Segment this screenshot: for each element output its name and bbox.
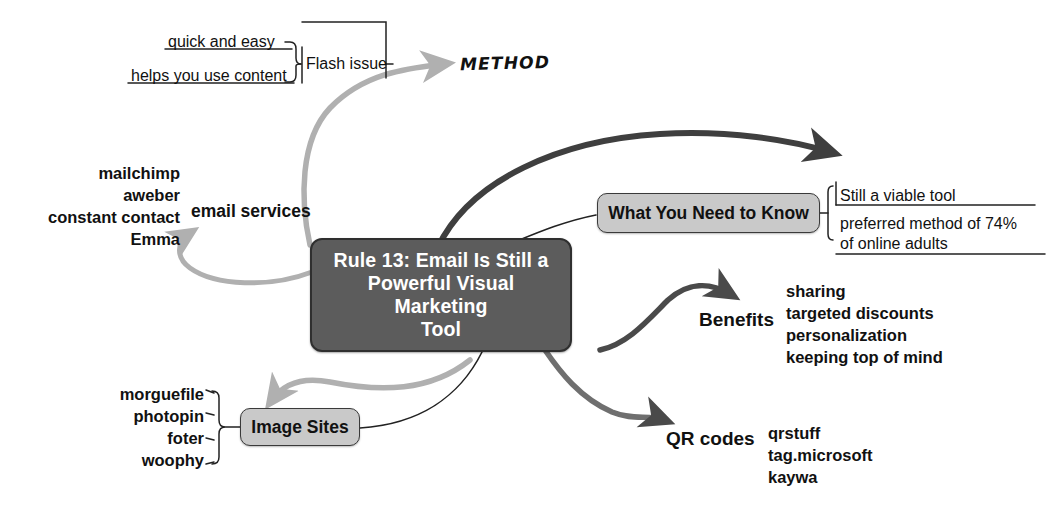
image-sites-item[interactable]: woophy: [20, 450, 204, 472]
email-services-list: mailchimp aweber constant contact Emma: [0, 163, 180, 251]
connector-center-to-method: [304, 64, 444, 245]
image-sites-node[interactable]: Image Sites: [240, 408, 360, 446]
center-node-label: Rule 13: Email Is Still a Powerful Visua…: [322, 249, 560, 341]
email-services-item[interactable]: Emma: [0, 229, 180, 251]
email-services-item[interactable]: mailchimp: [0, 163, 180, 185]
image-sites-item[interactable]: foter: [20, 428, 204, 450]
benefits-item[interactable]: personalization: [786, 325, 943, 347]
benefits-item[interactable]: sharing: [786, 281, 943, 303]
wyntk-item-preferred-method-line1[interactable]: preferred method of 74%: [840, 216, 1017, 232]
image-sites-item[interactable]: morguefile: [20, 384, 204, 406]
what-you-need-to-know-label: What You Need to Know: [608, 203, 809, 224]
connector-center-to-email-services: [180, 233, 313, 283]
wyntk-item-still-a-viable-tool[interactable]: Still a viable tool: [840, 188, 956, 204]
email-services-item[interactable]: constant contact: [0, 207, 180, 229]
wyntk-item-preferred-method-line2[interactable]: of online adults: [840, 236, 948, 252]
method-label[interactable]: METHOD: [460, 52, 551, 74]
benefits-label[interactable]: Benefits: [699, 310, 774, 329]
connector-line-image-sites-to-center: [360, 352, 482, 428]
flash-issue-label[interactable]: Flash issue: [306, 56, 387, 72]
qr-codes-item[interactable]: tag.microsoft: [768, 445, 873, 467]
connector-center-to-qr-codes: [545, 350, 664, 420]
bracket-flash-issue: [302, 22, 393, 83]
qr-codes-list: qrstuff tag.microsoft kaywa: [768, 423, 873, 489]
brace-image-sites-items: [206, 390, 240, 464]
method-item-quick-and-easy[interactable]: quick and easy: [168, 33, 275, 51]
center-node[interactable]: Rule 13: Email Is Still a Powerful Visua…: [310, 238, 572, 352]
qr-codes-label[interactable]: QR codes: [666, 429, 755, 448]
mindmap-canvas: Rule 13: Email Is Still a Powerful Visua…: [0, 0, 1062, 521]
image-sites-label: Image Sites: [251, 417, 348, 438]
qr-codes-item[interactable]: kaywa: [768, 467, 873, 489]
qr-codes-item[interactable]: qrstuff: [768, 423, 873, 445]
method-item-helps-you-use-content[interactable]: helps you use content: [131, 67, 287, 85]
benefits-list: sharing targeted discounts personalizati…: [786, 281, 943, 369]
benefits-item[interactable]: keeping top of mind: [786, 347, 943, 369]
benefits-item[interactable]: targeted discounts: [786, 303, 943, 325]
email-services-item[interactable]: aweber: [0, 185, 180, 207]
what-you-need-to-know-node[interactable]: What You Need to Know: [597, 193, 820, 233]
image-sites-list: morguefile photopin foter woophy: [20, 384, 204, 472]
image-sites-item[interactable]: photopin: [20, 406, 204, 428]
email-services-label[interactable]: email services: [191, 203, 311, 221]
connector-center-to-image-sites: [272, 360, 470, 400]
